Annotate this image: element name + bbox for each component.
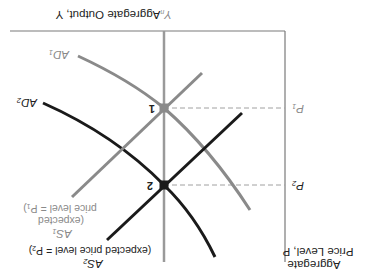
as1-note-line1: (expected <box>38 215 84 227</box>
point-1-marker <box>160 104 169 113</box>
x-axis-label: Aggregate Output, Y <box>55 9 160 21</box>
point-2-marker <box>160 181 169 190</box>
as1-label: AS1 <box>52 227 73 240</box>
p2-label: P2 <box>291 179 304 192</box>
p1-label: P1 <box>292 102 304 115</box>
as-ad-diagram: Aggregate Output, Y Yn Aggregate Price L… <box>0 0 365 278</box>
point-1-label: 1 <box>149 103 155 115</box>
ad2-label: AD2 <box>16 96 38 109</box>
as1-note-line2: price level = P1) <box>23 203 97 215</box>
ad1-label: AD1 <box>49 48 70 61</box>
as2-label: AS2 <box>82 257 103 270</box>
as2-note: (expected price level = P2) <box>29 245 152 257</box>
as2-line <box>107 113 242 240</box>
y-axis-label-line2: Price Level, P <box>282 246 353 258</box>
y-axis-label-line1: Aggregate <box>287 259 340 271</box>
yn-label: Yn <box>160 9 171 21</box>
point-2-label: 2 <box>147 180 153 192</box>
as1-line <box>72 73 202 197</box>
